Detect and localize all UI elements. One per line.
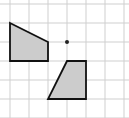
grid-diagram xyxy=(0,0,129,118)
center-point xyxy=(65,40,69,44)
